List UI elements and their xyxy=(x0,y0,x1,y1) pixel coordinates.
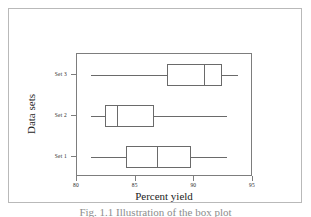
median-line xyxy=(204,64,205,86)
y-axis-tick-label: Set 2 xyxy=(55,112,67,118)
box-plot-canvas xyxy=(77,54,251,175)
x-axis-tick xyxy=(76,176,77,181)
whisker-low-line xyxy=(91,75,167,76)
figure-caption: Fig. 1.1 Illustration of the box plot xyxy=(0,206,311,217)
box-iqr xyxy=(167,64,222,86)
y-axis-title: Data sets xyxy=(25,94,37,134)
whisker-low-line xyxy=(91,116,105,117)
x-axis-tick-label: 95 xyxy=(249,182,255,188)
whisker-high-line xyxy=(191,157,227,158)
plot-area xyxy=(76,53,252,176)
median-line xyxy=(157,146,158,168)
y-axis-tick-label: Set 1 xyxy=(55,153,67,159)
y-axis-tick-label: Set 3 xyxy=(55,71,67,77)
x-axis-tick xyxy=(135,176,136,181)
x-axis-title: Percent yield xyxy=(76,190,252,202)
whisker-low-line xyxy=(91,157,126,158)
box-iqr xyxy=(105,105,154,127)
x-axis-tick-label: 80 xyxy=(73,182,79,188)
whisker-high-line xyxy=(222,75,237,76)
median-line xyxy=(117,105,118,127)
x-axis-tick-label: 90 xyxy=(190,182,196,188)
figure-frame: Data sets Set 3Set 2Set 1 80859095 Perce… xyxy=(8,8,302,203)
x-axis-tick-label: 85 xyxy=(132,182,138,188)
whisker-high-line xyxy=(154,116,227,117)
x-axis-tick xyxy=(252,176,253,181)
x-axis-tick xyxy=(193,176,194,181)
box-iqr xyxy=(126,146,191,168)
